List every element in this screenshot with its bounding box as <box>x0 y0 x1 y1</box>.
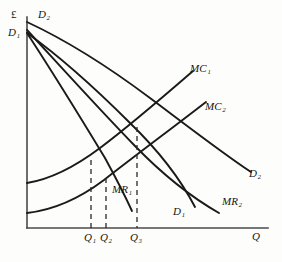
label-q2: Q₂ <box>100 232 112 243</box>
y-axis-label: £ <box>11 9 17 20</box>
label-demand-1-end: D₁ <box>173 206 185 217</box>
label-demand-2-top: D₂ <box>38 9 50 20</box>
label-q3: Q₃ <box>130 232 142 243</box>
curve-mc-2 <box>27 102 206 213</box>
x-axis-label: Q <box>252 231 260 242</box>
label-demand-1-top: D₁ <box>8 27 20 38</box>
label-demand-2-end: D₂ <box>249 168 261 179</box>
economics-diagram: £ D₂ D₁ MC₁ MC₂ D₂ D₁ MR₁ MR₂ Q₁ Q₂ Q₃ Q <box>0 0 282 262</box>
diagram-canvas <box>0 0 282 262</box>
label-mc-1: MC₁ <box>190 63 211 74</box>
label-mr-1: MR₁ <box>112 184 132 195</box>
label-q1: Q₁ <box>84 232 96 243</box>
label-mc-2: MC₂ <box>205 101 226 112</box>
label-mr-2: MR₂ <box>222 196 242 207</box>
